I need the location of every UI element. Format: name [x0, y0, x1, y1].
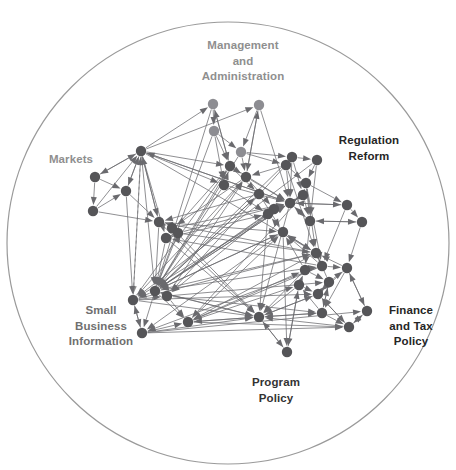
cluster-label-line: Business [75, 320, 127, 332]
edge-line [176, 169, 282, 285]
network-node[interactable] [344, 322, 354, 332]
arrowhead-icon [252, 170, 261, 176]
network-node[interactable] [317, 308, 327, 318]
network-node[interactable] [342, 200, 352, 210]
network-node[interactable] [357, 217, 367, 227]
network-node[interactable] [282, 347, 292, 357]
network-node[interactable] [90, 172, 100, 182]
edge [240, 158, 246, 172]
arrowhead-icon [304, 285, 313, 291]
arrowhead-icon [245, 107, 254, 113]
network-node[interactable] [183, 317, 193, 327]
network-node[interactable] [285, 198, 295, 208]
network-node[interactable] [278, 227, 288, 237]
edge [143, 296, 153, 327]
network-node[interactable] [208, 99, 218, 109]
edge [324, 210, 345, 260]
cluster-label-line: Management [207, 39, 278, 51]
edge-line [133, 165, 140, 294]
edge [309, 165, 315, 177]
network-node[interactable] [136, 146, 146, 156]
edge [298, 155, 311, 161]
edge [192, 236, 279, 318]
cluster-label-line: and [233, 55, 254, 67]
network-node[interactable] [241, 172, 251, 182]
network-node[interactable] [305, 216, 315, 226]
network-node[interactable] [281, 160, 291, 170]
edge-line [327, 316, 337, 321]
network-node[interactable] [317, 261, 327, 271]
arrowhead-icon [91, 197, 97, 205]
network-node[interactable] [128, 295, 138, 305]
network-node[interactable] [342, 263, 352, 273]
arrowhead-icon [243, 138, 249, 147]
network-node[interactable] [263, 209, 273, 219]
edge [159, 182, 243, 287]
network-node[interactable] [362, 306, 372, 316]
edge [333, 272, 342, 279]
network-node[interactable] [324, 277, 334, 287]
arrowhead-icon [350, 273, 356, 282]
arrowhead-icon [165, 215, 174, 221]
edge [146, 107, 208, 148]
arrowhead-icon [112, 194, 120, 201]
cluster-label-line: Administration [202, 70, 285, 82]
network-node[interactable] [209, 126, 219, 136]
network-node[interactable] [161, 233, 171, 243]
edge [350, 273, 365, 305]
label-layer: ManagementandAdministrationRegulationRef… [49, 39, 433, 404]
edge [130, 195, 154, 218]
network-node[interactable] [137, 328, 147, 338]
cluster-label-program-policy: ProgramPolicy [252, 376, 300, 404]
edge [304, 285, 313, 291]
edge-line [304, 201, 306, 208]
network-node[interactable] [301, 178, 311, 188]
edge [311, 186, 342, 202]
network-node[interactable] [298, 190, 308, 200]
cluster-label-line: Information [69, 335, 133, 347]
edge [91, 183, 97, 205]
edge [172, 238, 316, 265]
network-node[interactable] [312, 155, 322, 165]
arrowhead-icon [200, 107, 208, 114]
arrowhead-icon [283, 189, 289, 198]
network-node[interactable] [313, 289, 323, 299]
network-node[interactable] [88, 206, 98, 216]
edge [148, 268, 317, 331]
edge-line [311, 186, 335, 199]
edge-line [128, 164, 136, 186]
network-node[interactable] [219, 180, 229, 190]
network-node[interactable] [254, 312, 264, 322]
edge-line [353, 281, 365, 306]
arrowhead-icon [135, 319, 141, 328]
cluster-label-markets: Markets [49, 153, 93, 165]
arrowhead-icon [316, 218, 324, 224]
network-node[interactable] [150, 286, 160, 296]
network-node[interactable] [225, 161, 235, 171]
edge-line [304, 287, 305, 288]
network-node[interactable] [162, 291, 172, 301]
edge [133, 157, 143, 294]
edge [328, 264, 341, 270]
network-node[interactable] [254, 100, 264, 110]
arrowhead-icon [240, 163, 246, 171]
network-node[interactable] [173, 228, 183, 238]
arrowhead-icon [333, 196, 341, 202]
cluster-label-line: Small [85, 304, 116, 316]
arrowhead-icon [228, 141, 236, 148]
arrowhead-icon [353, 309, 361, 315]
network-node[interactable] [300, 265, 310, 275]
network-node[interactable] [294, 280, 304, 290]
edge-line [126, 197, 132, 286]
edge [146, 107, 253, 149]
edge-line [298, 158, 303, 159]
network-node[interactable] [311, 248, 321, 258]
cluster-label-management-and-administration: ManagementandAdministration [202, 39, 285, 82]
network-node[interactable] [121, 186, 131, 196]
edge-line [351, 209, 353, 211]
network-node[interactable] [154, 217, 164, 227]
edge-line [351, 227, 360, 254]
network-node[interactable] [236, 147, 246, 157]
arrowhead-icon [315, 280, 323, 286]
network-node[interactable] [254, 189, 264, 199]
